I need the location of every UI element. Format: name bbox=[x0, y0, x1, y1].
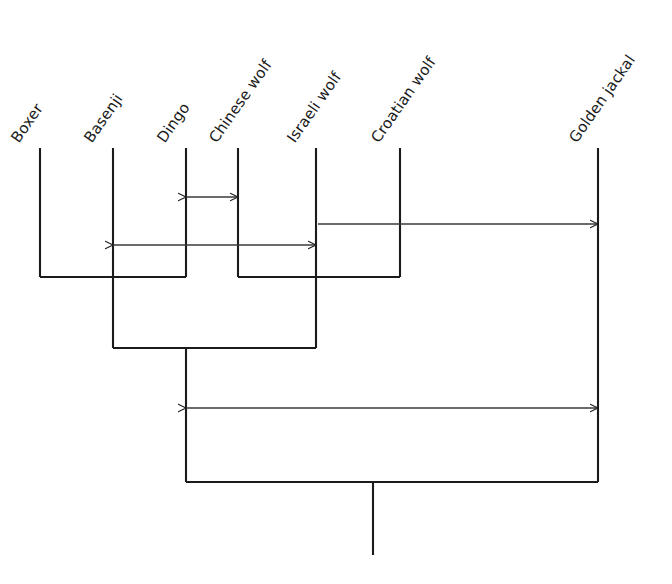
tip-branch-group bbox=[40, 148, 598, 482]
phylogenetic-tree-figure: BoxerBasenjiDingoChinese wolfIsraeli wol… bbox=[0, 0, 672, 584]
internal-node-group bbox=[40, 277, 598, 555]
tree-diagram-canvas bbox=[0, 0, 672, 584]
